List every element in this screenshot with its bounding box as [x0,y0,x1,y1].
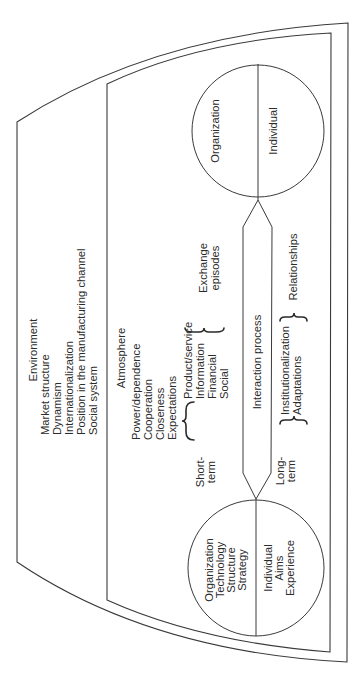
atmosphere-block: Atmosphere Power/dependence Cooperation … [115,328,178,440]
long-term-left-brace [280,416,307,424]
long-term-label: term [285,460,297,482]
environment-item: Position in the manufacturing channel [75,248,87,435]
exchange-item: Information [194,343,206,399]
exchange-episodes-label: episodes [209,245,221,290]
exchange-item: Product/service [182,322,194,399]
environment-item: Social system [87,366,99,435]
short-term-left-brace [182,402,194,440]
long-term-right-brace [280,313,307,321]
exchange-item: Social [218,369,230,399]
exchange-item: Financial [206,354,218,399]
party-a-organization-block: Organization Technology Structure Strate… [203,538,248,601]
long-term-block: Long- term Institutionalization Adaptati… [274,233,307,485]
environment-item: Internationalization [63,341,75,435]
atmosphere-item: Expectations [166,376,178,440]
environment-title: Environment [27,318,39,382]
environment-block: Environment Market structure Dynamism In… [27,248,99,435]
atmosphere-item: Power/dependence [130,344,142,440]
party-a-org-item: Strategy [236,549,248,591]
atmosphere-item: Closeness [154,387,166,440]
party-b-organization-label: Organization [209,99,221,162]
relationship-item: Adaptations [291,356,303,415]
interaction-model-diagram: Environment Market structure Dynamism In… [0,0,356,679]
relationship-item: Institutionalization [279,326,291,415]
atmosphere-item: Cooperation [142,379,154,440]
party-a-individual-block: Individual Aims Experience [262,540,296,596]
short-term-block: Short- term Product/service Information … [182,243,230,487]
party-a-ind-item: Experience [284,540,296,596]
environment-item: Market structure [39,354,51,435]
exchange-episodes-label: Exchange [197,243,209,293]
environment-item: Dynamism [51,382,63,435]
short-term-label: term [205,461,217,483]
atmosphere-title: Atmosphere [115,328,127,388]
party-b-individual-label: Individual [267,107,279,154]
relationships-label: Relationships [287,233,299,301]
interaction-process-label: Interaction process [251,314,263,409]
